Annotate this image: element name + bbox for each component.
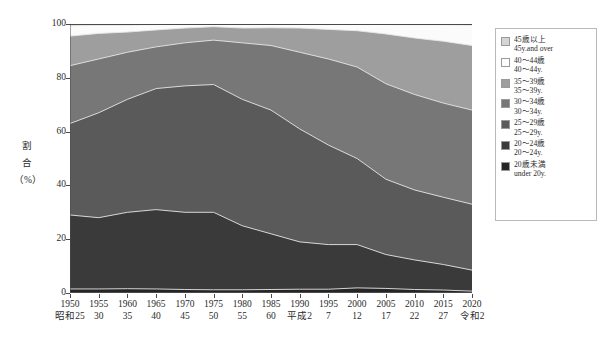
plot-svg xyxy=(70,24,472,293)
x-tick-era: 令和2 xyxy=(448,310,496,323)
legend-label: 25～29歳25～29y. xyxy=(514,118,545,137)
legend-item-1[interactable]: 40～44歳40～44y. xyxy=(501,56,592,75)
y-tick-label: 40 xyxy=(42,180,66,190)
legend-swatch-icon xyxy=(501,162,510,171)
legend-label: 20歳未満under 20y. xyxy=(514,160,546,179)
y-axis-ticks: 020406080100 xyxy=(40,0,66,341)
legend-label-en: under 20y. xyxy=(514,169,546,178)
legend-swatch-icon xyxy=(501,141,510,150)
y-axis-title-line: （%） xyxy=(14,172,40,189)
legend-label-en: 40～44y. xyxy=(514,65,545,74)
legend-swatch-icon xyxy=(501,79,510,88)
y-axis-title-line: 合 xyxy=(14,155,40,172)
legend-label-en: 20～24y. xyxy=(514,148,545,157)
y-tick-label: 80 xyxy=(42,73,66,83)
legend-label-en: 45y.and over xyxy=(514,44,553,53)
legend-label-ja: 20歳未満 xyxy=(514,160,546,169)
legend-label: 20～24歳20～24y. xyxy=(514,139,545,158)
legend-swatch-icon xyxy=(501,99,510,108)
legend-label-en: 30～34y. xyxy=(514,107,545,116)
plot-area xyxy=(70,24,472,293)
legend-label-ja: 25～29歳 xyxy=(514,118,545,127)
legend-label: 35～39歳35～39y. xyxy=(514,77,545,96)
legend-item-2[interactable]: 35～39歳35～39y. xyxy=(501,77,592,96)
legend-label-ja: 30～34歳 xyxy=(514,97,545,106)
legend-item-4[interactable]: 25～29歳25～29y. xyxy=(501,118,592,137)
legend-label: 45歳以上45y.and over xyxy=(514,35,553,54)
legend-item-6[interactable]: 20歳未満under 20y. xyxy=(501,160,592,179)
legend-label-en: 35～39y. xyxy=(514,86,545,95)
legend-swatch-icon xyxy=(501,37,510,46)
legend-label-ja: 45歳以上 xyxy=(514,35,553,44)
legend-label-en: 25～29y. xyxy=(514,128,545,137)
chart-legend: 45歳以上45y.and over40～44歳40～44y.35～39歳35～3… xyxy=(495,28,597,221)
legend-item-5[interactable]: 20～24歳20～24y. xyxy=(501,139,592,158)
y-tick-label: 0 xyxy=(42,288,66,298)
y-tick-label: 100 xyxy=(42,19,66,29)
y-tick-label: 60 xyxy=(42,127,66,137)
legend-label: 40～44歳40～44y. xyxy=(514,56,545,75)
x-tick-label: 2020令和2 xyxy=(448,298,496,323)
legend-label-ja: 40～44歳 xyxy=(514,56,545,65)
legend-swatch-icon xyxy=(501,58,510,67)
legend-item-3[interactable]: 30～34歳30～34y. xyxy=(501,97,592,116)
legend-label-ja: 20～24歳 xyxy=(514,139,545,148)
legend-swatch-icon xyxy=(501,120,510,129)
x-axis-ticks: 1950昭和2519553019603519654019704519755019… xyxy=(0,298,609,332)
y-axis-title: 割合（%） xyxy=(14,138,40,189)
legend-item-0[interactable]: 45歳以上45y.and over xyxy=(501,35,592,54)
legend-label: 30～34歳30～34y. xyxy=(514,97,545,116)
y-axis-title-line: 割 xyxy=(14,138,40,155)
stacked-area-chart: 割合（%） 020406080100 1950昭和251955301960351… xyxy=(0,0,609,341)
x-tick-year: 2020 xyxy=(448,298,496,310)
y-tick-label: 20 xyxy=(42,234,66,244)
legend-label-ja: 35～39歳 xyxy=(514,77,545,86)
